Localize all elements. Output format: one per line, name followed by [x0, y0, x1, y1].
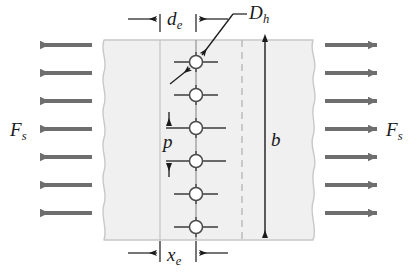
- plate-outline: [103, 40, 315, 240]
- figure-plate-with-holes: de Dh p b xe Fs Fs: [0, 0, 417, 273]
- label-force-right: Fs: [386, 120, 403, 142]
- label-xe: xe: [167, 245, 181, 267]
- label-force-right-subscript: s: [398, 129, 403, 143]
- force-arrows-right: [325, 45, 377, 213]
- plate-body: [103, 40, 315, 240]
- label-force-left-symbol: F: [10, 119, 22, 140]
- label-width-b: b: [271, 130, 281, 149]
- label-Dh-subscript: h: [263, 12, 269, 26]
- label-Dh: Dh: [249, 3, 269, 25]
- label-xe-symbol: x: [167, 244, 175, 265]
- label-force-left-subscript: s: [22, 129, 27, 143]
- force-arrows-left: [40, 45, 92, 213]
- label-force-left: Fs: [10, 120, 27, 142]
- label-de: de: [167, 9, 182, 31]
- diagram-canvas: [0, 0, 417, 273]
- label-de-symbol: d: [167, 8, 177, 29]
- label-force-right-symbol: F: [386, 119, 398, 140]
- label-Dh-symbol: D: [249, 2, 263, 23]
- label-pitch: p: [163, 132, 173, 151]
- label-de-subscript: e: [177, 18, 183, 32]
- label-xe-subscript: e: [176, 254, 182, 268]
- label-width-symbol: b: [271, 129, 281, 150]
- label-pitch-symbol: p: [163, 131, 173, 152]
